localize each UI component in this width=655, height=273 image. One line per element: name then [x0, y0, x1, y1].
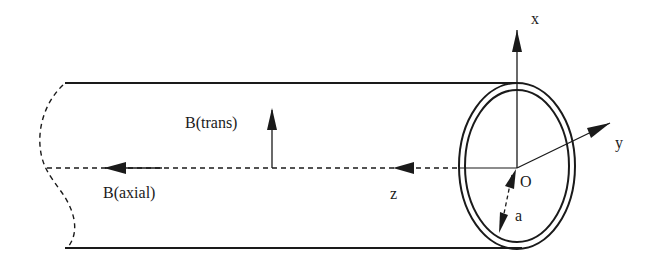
axis-x-label: x: [531, 10, 539, 27]
origin-label: O: [520, 173, 532, 190]
axis-x-arrowhead-icon: [512, 30, 522, 52]
axis-y-arrowhead-icon: [587, 123, 610, 138]
b-axial-label: B(axial): [103, 184, 155, 202]
tube-broken-end: [40, 85, 75, 247]
axis-z-arrowhead-icon: [393, 162, 414, 174]
radius-a-arrowhead-top-icon: [505, 169, 516, 189]
b-axial-arrowhead-icon: [104, 162, 126, 174]
axis-z-label: z: [390, 185, 397, 202]
b-trans-label: B(trans): [185, 114, 237, 132]
b-trans-arrowhead-icon: [267, 108, 277, 130]
radius-a-label: a: [515, 207, 522, 224]
radius-a-arrowhead-bottom-icon: [499, 212, 508, 233]
axis-y-label: y: [615, 134, 623, 152]
tube-diagram: x y z O a B(trans) B(axial): [0, 0, 655, 273]
